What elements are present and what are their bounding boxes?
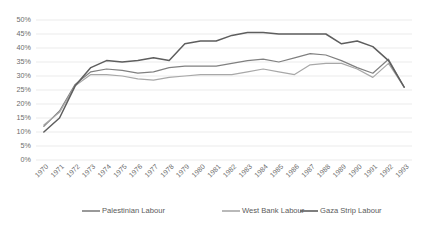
x-axis-tick-label: 1978	[159, 163, 175, 179]
x-axis-tick-label: 1975	[112, 163, 128, 179]
series-line-gaza-strip-labour	[44, 33, 404, 132]
x-axis-tick-label: 1993	[394, 163, 410, 179]
x-axis-tick-label: 1984	[253, 163, 269, 179]
x-axis-tick-label: 1972	[65, 163, 81, 179]
x-axis-tick-label: 1992	[378, 163, 394, 179]
x-axis-tick-label: 1971	[49, 163, 65, 179]
y-axis-tick-labels: 50%45%40%35%30%25%20%15%10%5%0%	[17, 15, 32, 164]
x-axis-tick-label: 1986	[284, 163, 300, 179]
y-axis-tick-label: 50%	[17, 15, 32, 24]
legend-label-2: Gaza Strip Labour	[320, 206, 382, 215]
chart-canvas: 50%45%40%35%30%25%20%15%10%5%0% 19701971…	[0, 0, 424, 228]
legend-label-0: Palestinian Labour	[102, 206, 165, 215]
chart-legend: Palestinian LabourWest Bank LabourGaza S…	[82, 206, 382, 215]
x-axis-tick-label: 1974	[96, 163, 112, 179]
legend-label-1: West Bank Labour	[242, 206, 305, 215]
y-axis-tick-label: 10%	[17, 127, 32, 136]
x-axis-tick-label: 1991	[363, 163, 379, 179]
x-axis-tick-label: 1989	[331, 163, 347, 179]
x-axis-tick-label: 1987	[300, 163, 316, 179]
y-axis-tick-label: 15%	[17, 113, 32, 122]
x-axis-tick-label: 1970	[34, 163, 50, 179]
x-axis-tick-label: 1982	[222, 163, 238, 179]
x-axis-tick-label: 1980	[190, 163, 206, 179]
x-axis-tick-labels: 1970197119721973197419751976197719781979…	[34, 163, 410, 179]
x-axis-tick-label: 1990	[347, 163, 363, 179]
y-axis-tick-label: 40%	[17, 43, 32, 52]
x-axis-tick-label: 1988	[316, 163, 332, 179]
x-axis-tick-label: 1985	[269, 163, 285, 179]
x-axis-tick-label: 1976	[128, 163, 144, 179]
x-axis-tick-label: 1983	[237, 163, 253, 179]
x-axis-tick-label: 1981	[206, 163, 222, 179]
data-series-group	[44, 33, 404, 132]
series-line-west-bank-labour	[44, 63, 404, 125]
x-axis-tick-label: 1973	[81, 163, 97, 179]
line-chart: 50%45%40%35%30%25%20%15%10%5%0% 19701971…	[0, 0, 424, 228]
x-axis-tick-label: 1977	[143, 163, 159, 179]
y-axis-tick-label: 35%	[17, 57, 32, 66]
y-axis-tick-label: 5%	[21, 141, 32, 150]
y-axis-tick-label: 25%	[17, 85, 32, 94]
x-axis-tick-label: 1979	[175, 163, 191, 179]
y-axis-tick-label: 20%	[17, 99, 32, 108]
y-axis-tick-label: 45%	[17, 29, 32, 38]
y-axis-tick-label: 0%	[21, 155, 32, 164]
y-axis-tick-label: 30%	[17, 71, 32, 80]
